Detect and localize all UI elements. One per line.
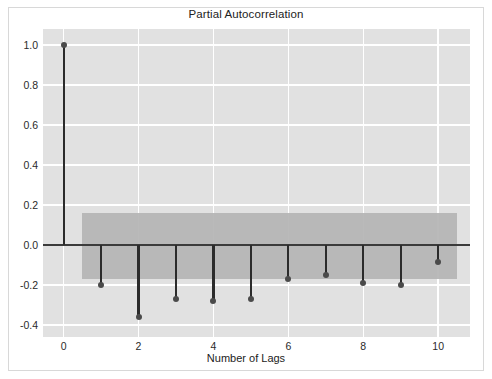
gridline-vertical bbox=[288, 29, 289, 337]
gridline-horizontal bbox=[43, 164, 470, 165]
partial-autocorrelation-figure: Partial Autocorrelation 1.00.80.60.40.20… bbox=[0, 0, 492, 379]
gridline-vertical bbox=[437, 29, 438, 337]
y-axis-tick-label: -0.4 bbox=[2, 319, 38, 331]
x-axis-tick-label: 8 bbox=[343, 340, 383, 352]
plot-area bbox=[43, 29, 470, 337]
gridline-horizontal bbox=[43, 84, 470, 85]
stem-line bbox=[400, 245, 402, 285]
y-axis-tick-label: 0.8 bbox=[2, 79, 38, 91]
y-axis-tick-label: 0.4 bbox=[2, 159, 38, 171]
stem-marker bbox=[173, 296, 179, 302]
stem-line bbox=[63, 45, 65, 245]
gridline-horizontal bbox=[43, 204, 470, 205]
zero-line bbox=[43, 244, 470, 246]
stem-line bbox=[175, 245, 177, 299]
x-axis-tick-label: 2 bbox=[119, 340, 159, 352]
gridline-horizontal bbox=[43, 44, 470, 45]
stem-line bbox=[137, 245, 139, 317]
stem-marker bbox=[98, 282, 104, 288]
x-axis-tick-label: 10 bbox=[418, 340, 458, 352]
stem-line bbox=[100, 245, 102, 285]
y-axis-tick-labels: 1.00.80.60.40.20.0-0.2-0.4 bbox=[0, 29, 38, 337]
stem-line bbox=[325, 245, 327, 275]
x-axis-tick-label: 6 bbox=[268, 340, 308, 352]
chart-title: Partial Autocorrelation bbox=[0, 8, 492, 20]
y-axis-tick-label: -0.2 bbox=[2, 279, 38, 291]
x-axis-tick-label: 0 bbox=[44, 340, 84, 352]
gridline-horizontal bbox=[43, 124, 470, 125]
stem-marker bbox=[398, 282, 404, 288]
y-axis-tick-label: 0.6 bbox=[2, 119, 38, 131]
y-axis-tick-label: 0.2 bbox=[2, 199, 38, 211]
gridline-horizontal bbox=[43, 324, 470, 325]
gridline-vertical bbox=[363, 29, 364, 337]
stem-line bbox=[287, 245, 289, 279]
x-axis-tick-label: 4 bbox=[193, 340, 233, 352]
y-axis-tick-label: 1.0 bbox=[2, 39, 38, 51]
stem-line bbox=[362, 245, 364, 283]
stem-marker bbox=[323, 272, 329, 278]
stem-marker bbox=[61, 42, 67, 48]
stem-marker bbox=[136, 314, 142, 320]
stem-marker bbox=[285, 276, 291, 282]
stem-line bbox=[250, 245, 252, 299]
gridline-horizontal bbox=[43, 284, 470, 285]
x-axis-label: Number of Lags bbox=[0, 352, 492, 364]
stem-marker bbox=[210, 298, 216, 304]
y-axis-tick-label: 0.0 bbox=[2, 239, 38, 251]
stem-marker bbox=[248, 296, 254, 302]
stem-line bbox=[212, 245, 214, 301]
